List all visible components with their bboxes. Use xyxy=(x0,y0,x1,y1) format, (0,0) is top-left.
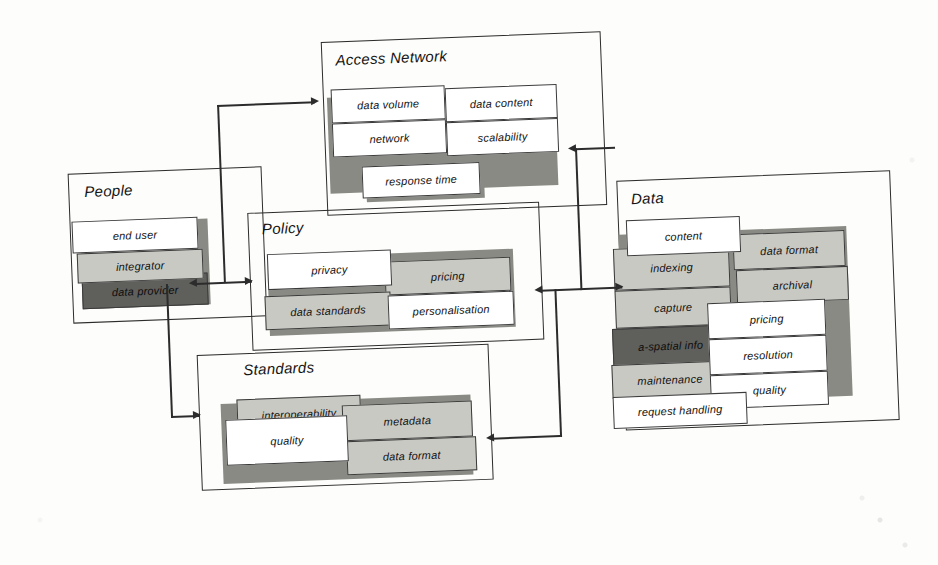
policy-cell-privacy[interactable]: privacy xyxy=(267,249,392,290)
access-network-cell-data-volume[interactable]: data volume xyxy=(331,85,446,123)
policy-title: Policy xyxy=(262,219,304,238)
connector-people-access-top xyxy=(217,101,315,106)
connector-people-access-arrow xyxy=(311,97,319,105)
connector-people-policy-arrow-left xyxy=(189,279,197,287)
policy-cell-data-standards[interactable]: data standards xyxy=(264,291,391,330)
access-network-cell-network[interactable]: network xyxy=(332,119,447,157)
access-network-cell-response-time[interactable]: response time xyxy=(362,162,481,199)
people-cell-end-user[interactable]: end user xyxy=(71,217,198,254)
access-network-cell-scalability[interactable]: scalability xyxy=(446,118,559,156)
standards-title: Standards xyxy=(243,358,315,378)
framework-diagram: People data provider integrator end user… xyxy=(0,0,938,565)
data-cell-pricing[interactable]: pricing xyxy=(707,299,826,340)
access-network-cell-data-content[interactable]: data content xyxy=(445,84,558,122)
standards-cell-metadata[interactable]: metadata xyxy=(342,400,473,441)
data-cell-resolution[interactable]: resolution xyxy=(708,335,827,376)
connector-data-standards-bottom xyxy=(492,435,560,439)
connector-people-standards-arrow xyxy=(193,411,201,419)
data-cell-archival[interactable]: archival xyxy=(736,266,849,304)
connector-data-standards-arrow xyxy=(486,434,494,442)
policy-cell-personalisation[interactable]: personalisation xyxy=(388,291,515,330)
people-title: People xyxy=(84,181,133,200)
standards-cell-quality[interactable]: quality xyxy=(225,415,349,466)
connector-policy-data-arrow-right xyxy=(615,283,623,291)
connector-people-policy-arrow-right xyxy=(245,277,253,285)
people-cell-integrator[interactable]: integrator xyxy=(77,249,204,284)
connector-policy-data-arrow-left xyxy=(534,286,542,294)
connector-data-standards-riser xyxy=(554,289,561,437)
data-cell-request-handling[interactable]: request handling xyxy=(613,392,748,429)
standards-cell-data-format[interactable]: data format xyxy=(346,436,477,475)
data-title: Data xyxy=(631,189,665,207)
data-cell-data-format[interactable]: data format xyxy=(732,230,845,270)
policy-cell-pricing[interactable]: pricing xyxy=(384,257,511,296)
data-cell-content[interactable]: content xyxy=(626,216,741,256)
connector-data-access-arrow xyxy=(568,144,576,152)
